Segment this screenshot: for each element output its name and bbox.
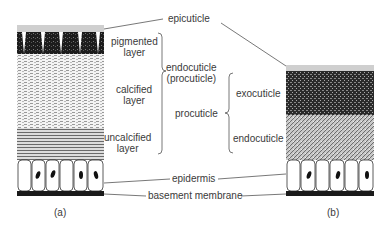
epicuticle-layer-a: [17, 25, 104, 32]
basement-membrane-b: [286, 191, 374, 196]
label-endocuticle-procuticle: endocuticle (procuticle): [166, 62, 217, 84]
label-epicuticle: epicuticle: [168, 13, 210, 24]
label-endocuticle-b: endocuticle: [233, 133, 284, 144]
cuticle-column-a: [17, 25, 104, 196]
exocuticle-layer: [286, 71, 374, 115]
basement-membrane-a: [17, 191, 104, 196]
label-epidermis: epidermis: [172, 173, 215, 184]
calcified-layer: [17, 54, 104, 128]
caption-b: (b): [327, 207, 339, 218]
endocuticle-layer: [286, 115, 374, 160]
caption-a: (a): [54, 207, 66, 218]
label-exocuticle: exocuticle: [236, 88, 280, 99]
label-procuticle: procuticle: [175, 108, 218, 119]
label-pigmented: pigmented layer: [111, 36, 158, 58]
label-uncalcified: uncalcified layer: [104, 132, 151, 154]
cuticle-column-b: [286, 65, 374, 196]
label-calcified: calcified layer: [116, 84, 152, 106]
uncalcified-layer: [17, 128, 104, 160]
epicuticle-layer-b: [286, 65, 374, 71]
epidermis-cells-a: [18, 160, 103, 191]
label-basement-membrane: basement membrane: [148, 190, 243, 201]
epidermis-cells-b: [287, 160, 373, 191]
